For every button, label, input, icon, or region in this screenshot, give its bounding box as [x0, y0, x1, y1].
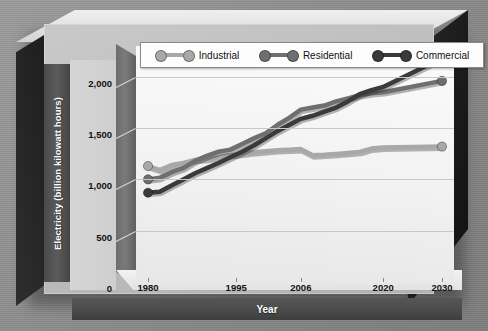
- x-tick-label: 1980: [137, 282, 158, 293]
- gridline: [136, 231, 454, 232]
- gridline: [136, 179, 454, 180]
- x-axis-title-band: Year: [72, 298, 462, 320]
- series-line-residential: [148, 81, 442, 180]
- x-tick-mark: [442, 278, 443, 282]
- y-tick-label: 0: [107, 283, 112, 294]
- chart-3d-block: Electricity (billion kilowatt hours) 050…: [16, 10, 468, 306]
- y-tick-label: 1,000: [88, 180, 112, 191]
- legend-label-residential: Residential: [303, 50, 352, 61]
- legend-key-commercial: [372, 49, 412, 61]
- x-tick-label: 2030: [431, 282, 452, 293]
- legend-item-commercial[interactable]: Commercial: [372, 49, 469, 61]
- x-tick-mark: [236, 278, 237, 282]
- legend-key-residential: [259, 49, 299, 61]
- plot-left-wall: [116, 44, 136, 284]
- legend-label-industrial: Industrial: [199, 50, 240, 61]
- y-tick-label: 500: [96, 231, 112, 242]
- chart-panel: Electricity (billion kilowatt hours) 050…: [44, 24, 434, 294]
- y-axis-title: Electricity (billion kilowatt hours): [52, 97, 63, 250]
- x-tick-label: 1995: [226, 282, 247, 293]
- gridline: [136, 77, 454, 78]
- legend-item-residential[interactable]: Residential: [259, 49, 352, 61]
- y-tick-label: 2,000: [88, 77, 112, 88]
- legend-label-commercial: Commercial: [416, 50, 469, 61]
- x-tick-mark: [148, 278, 149, 282]
- series-endpoint-marker: [143, 161, 152, 170]
- series-overlay: [136, 46, 454, 282]
- chart-legend: Industrial Residential Commercial: [140, 42, 484, 68]
- plot-area: [136, 46, 454, 282]
- legend-item-industrial[interactable]: Industrial: [155, 49, 240, 61]
- x-tick-mark: [301, 278, 302, 282]
- series-endpoint-marker: [143, 188, 152, 197]
- y-axis-tick-labels: 05001,0001,5002,000: [70, 60, 116, 290]
- series-line-shadow: [149, 82, 443, 181]
- gridline: [136, 128, 454, 129]
- x-tick-label: 2006: [290, 282, 311, 293]
- x-tick-mark: [383, 278, 384, 282]
- x-tick-label: 2020: [373, 282, 394, 293]
- x-axis-title: Year: [256, 304, 277, 315]
- legend-key-industrial: [155, 49, 195, 61]
- y-axis-title-bar: Electricity (billion kilowatt hours): [44, 64, 70, 282]
- y-tick-label: 1,500: [88, 129, 112, 140]
- x-axis-tick-labels: 19801995200620202030: [116, 282, 462, 298]
- series-endpoint-marker: [437, 142, 446, 151]
